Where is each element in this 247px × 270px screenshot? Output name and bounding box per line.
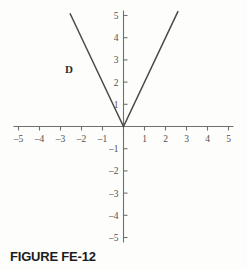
y-axis-tick-label: –5 — [108, 233, 119, 243]
y-axis-tick-label: –3 — [108, 189, 119, 199]
x-axis-tick-label: –3 — [55, 134, 66, 144]
y-axis-tick-label: –2 — [108, 166, 119, 176]
x-axis-tick-label: 4 — [205, 134, 210, 144]
x-axis-tick-label: –1 — [97, 134, 108, 144]
x-axis-tick-label: –5 — [13, 134, 24, 144]
series-label-group: D — [65, 63, 73, 75]
figure-caption: FIGURE FE-12 — [10, 249, 96, 264]
plot-area: –5–4–3–2–11234554321–1–2–3–4–5 D — [0, 0, 247, 247]
y-axis-tick-label: 5 — [114, 11, 119, 21]
y-axis-tick-label: –1 — [108, 144, 119, 154]
curve-label-d: D — [65, 63, 73, 75]
x-axis-tick-label: –2 — [76, 134, 87, 144]
x-axis-tick-label: 1 — [142, 134, 147, 144]
x-axis-tick-label: –4 — [34, 134, 45, 144]
y-axis-tick-label: 2 — [114, 78, 119, 88]
x-axis-tick-label: 5 — [226, 134, 231, 144]
y-axis-tick-label: 1 — [114, 100, 119, 110]
y-axis-tick-label: 3 — [114, 55, 119, 65]
coordinate-plot: –5–4–3–2–11234554321–1–2–3–4–5 D — [0, 0, 247, 247]
x-axis-tick-label: 2 — [163, 134, 168, 144]
x-axis-tick-label: 3 — [184, 134, 189, 144]
y-axis-tick-label: 4 — [114, 33, 119, 43]
figure-container: –5–4–3–2–11234554321–1–2–3–4–5 D FIGURE … — [0, 0, 247, 270]
y-axis-tick-label: –4 — [108, 211, 119, 221]
